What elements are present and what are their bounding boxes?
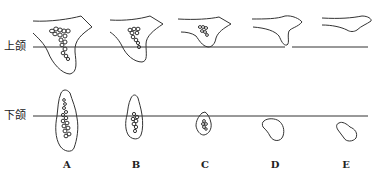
lower-c-shape — [196, 112, 211, 135]
lower-c-cells — [202, 120, 208, 131]
upper-d-shape — [252, 16, 302, 45]
upper-e-shape — [322, 16, 371, 32]
upper-jaw-label: 上颌 — [4, 41, 26, 53]
column-label-b: B — [128, 159, 144, 170]
column-label-d: D — [267, 159, 283, 170]
lower-a-shape — [56, 90, 78, 151]
lower-b-shape — [126, 95, 143, 139]
upper-c-shape — [178, 17, 231, 47]
upper-a-cells — [50, 27, 71, 61]
lower-b-cells — [131, 112, 139, 132]
upper-a-shape — [33, 16, 92, 74]
column-label-a: A — [59, 159, 75, 170]
upper-b-shape — [110, 16, 163, 62]
upper-c-cells — [198, 26, 208, 37]
upper-b-cells — [128, 27, 141, 48]
lower-jaw-label: 下颌 — [4, 110, 26, 122]
lower-a-cells — [61, 99, 71, 138]
column-label-e: E — [338, 159, 354, 170]
column-label-c: C — [197, 159, 213, 170]
diagram-svg — [0, 0, 376, 180]
tooth-development-diagram: 上颌 下颌 A B C D E — [0, 0, 376, 180]
lower-d-shape — [262, 119, 283, 141]
lower-e-shape — [337, 122, 357, 141]
